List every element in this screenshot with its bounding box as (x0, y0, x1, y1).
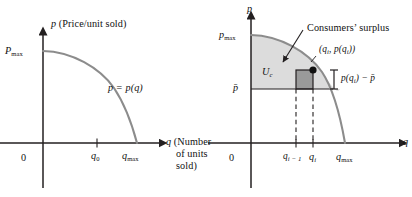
right-pbar-label: p̄ (233, 82, 238, 93)
left-x-axis-label: q (Number (166, 136, 211, 147)
right-tick-label-qi-minus-1: qi − 1 (283, 151, 302, 162)
left-tick-label-q0: q0 (91, 150, 100, 161)
left-curve-label: p = p(q) (108, 82, 143, 93)
left-x-axis-caption-line3: sold) (176, 160, 197, 171)
right-pmax-label: pmax (219, 29, 236, 40)
right-origin-label: 0 (229, 152, 234, 163)
left-pmax-label: Pmax (5, 45, 23, 56)
left-demand-curve (43, 51, 137, 143)
right-pmax-subscript: max (224, 34, 235, 41)
point-label: (qi, p(qi)) (319, 44, 355, 55)
point-marker-qi (309, 66, 316, 73)
difference-bracket-label: p(qi) − p̄ (341, 73, 375, 84)
left-x-axis-caption-line2: of units (176, 148, 208, 159)
left-panel-graphics (0, 34, 160, 188)
left-tick-label-qmax: qmax (122, 150, 139, 161)
left-pmax-subscript: max (11, 50, 22, 57)
left-y-axis-label: p (Price/unit sold) (51, 18, 127, 29)
riemann-strip (296, 70, 313, 89)
left-y-axis-caption: (Price/unit sold) (59, 18, 127, 29)
left-origin-label: 0 (21, 152, 26, 163)
economics-figure: p (Price/unit sold) Pmax 0 q0 qmax q (Nu… (0, 0, 412, 197)
right-x-axis-label: q (403, 136, 408, 147)
right-y-axis-label: p (247, 3, 252, 14)
right-tick-label-qmax: qmax (336, 151, 353, 162)
right-tick-label-qi: qi (309, 151, 316, 162)
surplus-region-label: Uc (262, 66, 273, 77)
left-x-axis-caption-1: (Number (174, 136, 211, 147)
right-panel-graphics (208, 18, 400, 188)
consumers-surplus-annotation: Consumers’ surplus (307, 22, 389, 33)
